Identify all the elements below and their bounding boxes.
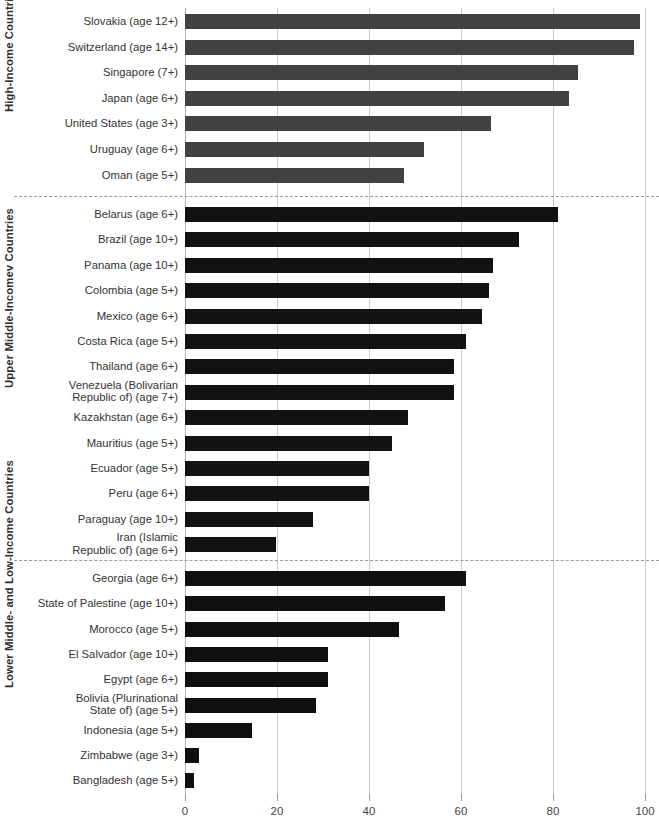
category-label: Colombia (age 5+) <box>20 284 178 297</box>
gridline-80 <box>553 8 554 794</box>
category-label: Mexico (age 6+) <box>20 310 178 323</box>
category-label: Panama (age 10+) <box>20 259 178 272</box>
group-axis-title-upper-middle-income-text: Upper Middle-Incomev Countries <box>0 370 184 388</box>
category-label: Costa Rica (age 5+) <box>20 335 178 348</box>
bar <box>185 436 392 451</box>
x-axis-tick-label-20: 20 <box>271 805 284 817</box>
category-label: Singapore (7+) <box>20 66 178 79</box>
x-axis-tick-0 <box>185 794 186 801</box>
bar <box>185 91 569 106</box>
bar <box>185 283 489 298</box>
bar <box>185 647 328 662</box>
bar <box>185 116 491 131</box>
x-axis-tick-40 <box>369 794 370 801</box>
x-axis-tick-80 <box>553 794 554 801</box>
bar <box>185 258 493 273</box>
x-axis-tick-60 <box>461 794 462 801</box>
bar <box>185 207 558 222</box>
group-axis-title-high-income: High-Income Countries <box>0 14 18 192</box>
category-label: Bolivia (Plurinational State of) (age 5+… <box>20 692 178 717</box>
group-divider-1 <box>14 196 659 197</box>
x-axis-tick-20 <box>277 794 278 801</box>
category-label: Indonesia (age 5+) <box>20 724 178 737</box>
category-label: State of Palestine (age 10+) <box>20 597 178 610</box>
bar <box>185 537 276 552</box>
category-label: Morocco (age 5+) <box>20 623 178 636</box>
bar <box>185 723 252 738</box>
bar <box>185 461 369 476</box>
category-label: Georgia (age 6+) <box>20 572 178 585</box>
bar <box>185 309 482 324</box>
group-divider-2 <box>14 560 659 561</box>
bar <box>185 359 454 374</box>
category-label: United States (age 3+) <box>20 117 178 130</box>
bar <box>185 14 640 29</box>
category-label: Uruguay (age 6+) <box>20 143 178 156</box>
category-label: Switzerland (age 14+) <box>20 41 178 54</box>
bar <box>185 512 313 527</box>
category-label: El Salvador (age 10+) <box>20 648 178 661</box>
x-axis-tick-label-60: 60 <box>455 805 468 817</box>
bar <box>185 232 519 247</box>
bar <box>185 40 634 55</box>
category-label: Paraguay (age 10+) <box>20 513 178 526</box>
category-label: Brazil (age 10+) <box>20 233 178 246</box>
bar <box>185 622 399 637</box>
category-label: Bangladesh (age 5+) <box>20 774 178 787</box>
group-axis-title-high-income-text: High-Income Countries <box>0 94 98 112</box>
bar <box>185 410 408 425</box>
gridline-100 <box>645 8 646 794</box>
bar <box>185 672 328 687</box>
category-label: Iran (Islamic Republic of) (age 6+) <box>20 531 178 556</box>
x-axis-tick-label-80: 80 <box>547 805 560 817</box>
bar <box>185 65 578 80</box>
bar <box>185 773 194 788</box>
category-label: Belarus (age 6+) <box>20 208 178 221</box>
bar <box>185 334 466 349</box>
category-label: Slovakia (age 12+) <box>20 15 178 28</box>
bar <box>185 385 454 400</box>
bar <box>185 571 466 586</box>
bar <box>185 142 424 157</box>
category-label: Oman (age 5+) <box>20 169 178 182</box>
x-axis-tick-label-100: 100 <box>635 805 654 817</box>
bar <box>185 168 404 183</box>
category-label: Peru (age 6+) <box>20 487 178 500</box>
x-axis-tick-label-40: 40 <box>363 805 376 817</box>
bar <box>185 698 316 713</box>
category-label: Kazakhstan (age 6+) <box>20 411 178 424</box>
bar <box>185 596 445 611</box>
category-label: Ecuador (age 5+) <box>20 462 178 475</box>
bar <box>185 748 199 763</box>
bar-chart: Slovakia (age 12+)Switzerland (age 14+)S… <box>0 0 659 832</box>
x-axis-tick-label-0: 0 <box>182 805 188 817</box>
bar <box>185 486 369 501</box>
category-label: Mauritius (age 5+) <box>20 437 178 450</box>
group-axis-title-lower-income-text: Lower Middle- and Low-Income Countries <box>0 670 120 688</box>
group-axis-title-lower-income: Lower Middle- and Low-Income Countries <box>0 568 18 790</box>
category-label: Zimbabwe (age 3+) <box>20 749 178 762</box>
x-axis-tick-100 <box>645 794 646 801</box>
